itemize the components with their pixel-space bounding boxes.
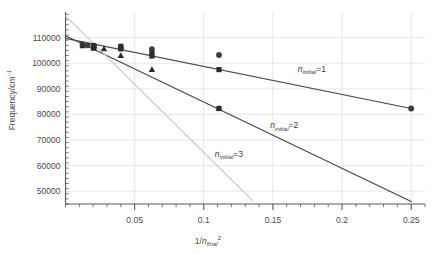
series-fit-lines bbox=[66, 16, 412, 202]
x-tick-label: 0.25 bbox=[403, 215, 420, 225]
series-annotation: ninitial=2 bbox=[270, 120, 298, 131]
plot-canvas: 50000600007000080000900001000001100000.0… bbox=[0, 0, 435, 254]
x-tick-label: 0.05 bbox=[126, 215, 143, 225]
axes bbox=[66, 12, 426, 204]
y-tick-label: 60000 bbox=[37, 161, 61, 171]
x-axis-title: 1/nfinal2 bbox=[195, 235, 222, 247]
data-point-circle bbox=[216, 52, 222, 58]
y-tick-label: 80000 bbox=[37, 109, 61, 119]
data-point-square bbox=[216, 67, 221, 72]
frequency-vs-inverse-n-final-squared-chart: 50000600007000080000900001000001100000.0… bbox=[0, 0, 435, 254]
series-fit-line bbox=[66, 38, 412, 108]
x-tick-label: 0.2 bbox=[336, 215, 348, 225]
series-data-points bbox=[79, 42, 414, 112]
series-annotation: ninitial=3 bbox=[215, 149, 243, 160]
y-tick-label: 50000 bbox=[37, 186, 61, 196]
y-axis-title: Frequency/cm−1 bbox=[6, 69, 17, 130]
data-point-triangle bbox=[118, 52, 124, 58]
x-tick-label: 0.15 bbox=[265, 215, 282, 225]
y-tick-label: 70000 bbox=[37, 135, 61, 145]
y-tick-label: 90000 bbox=[37, 84, 61, 94]
data-point-triangle bbox=[149, 66, 155, 72]
data-point-circle bbox=[85, 42, 91, 48]
data-point-circle bbox=[408, 106, 414, 112]
series-fit-line bbox=[66, 36, 412, 202]
data-point-square bbox=[118, 46, 123, 51]
gridlines bbox=[66, 12, 426, 204]
data-point-square bbox=[149, 53, 154, 58]
series-annotations: ninitial=1ninitial=2ninitial=3 bbox=[215, 64, 326, 160]
y-tick-label: 110000 bbox=[33, 33, 61, 43]
x-tick-label: 0.1 bbox=[198, 215, 210, 225]
series-annotation: ninitial=1 bbox=[298, 64, 326, 75]
y-tick-label: 100000 bbox=[32, 58, 61, 68]
tick-labels: 50000600007000080000900001000001100000.0… bbox=[32, 33, 420, 225]
